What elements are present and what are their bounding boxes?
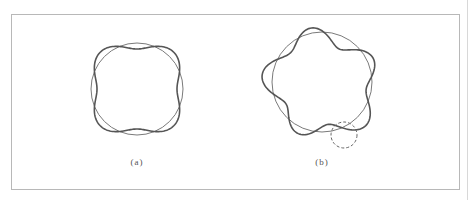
panel-label-b: (b) (315, 157, 329, 167)
panel-b (262, 28, 375, 148)
dashed-highlight-circle (331, 122, 357, 148)
panel-label-a: (a) (131, 157, 144, 167)
deformed-curve-a (94, 46, 179, 131)
panel-a (91, 43, 183, 135)
reference-circle-b (272, 32, 372, 132)
figure-canvas (0, 0, 472, 200)
deformed-curve-b (262, 28, 375, 135)
reference-circle-a (91, 43, 183, 135)
